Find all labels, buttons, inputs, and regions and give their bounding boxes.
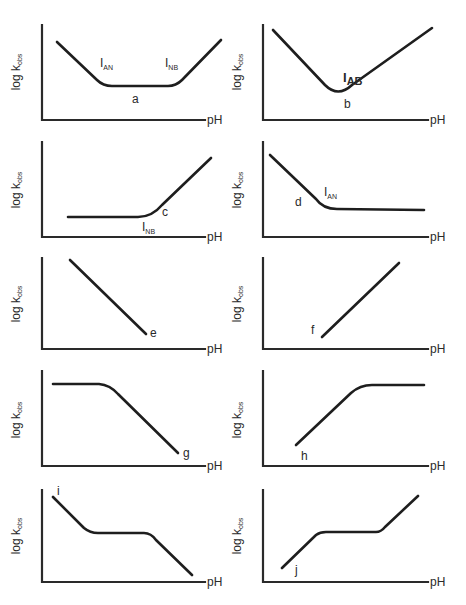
x-axis-label: pH — [207, 342, 222, 356]
rate-profile-curve — [296, 385, 424, 445]
x-axis-label: pH — [430, 575, 445, 589]
y-axis-label: log kobs — [230, 517, 244, 554]
panel-g: pHlog kobsg — [9, 371, 222, 473]
rate-profile-curve — [270, 155, 424, 210]
y-axis-label: log kobs — [9, 171, 23, 208]
region-label: IAN — [324, 185, 337, 200]
curve-letter-label: i — [57, 484, 60, 498]
panel-j: pHlog kobsj — [230, 490, 445, 589]
rate-profile-curve — [53, 384, 178, 453]
panel-i: pHlog kobsi — [9, 484, 222, 589]
rate-profile-curve — [57, 40, 221, 86]
panel-f: pHlog kobsf — [230, 258, 445, 356]
rate-profile-curve — [282, 496, 418, 568]
y-axis-label: log kobs — [230, 171, 244, 208]
axes — [42, 142, 205, 237]
rate-profile-curve — [70, 260, 146, 334]
x-axis-label: pH — [430, 113, 445, 127]
region-label: INB — [142, 220, 155, 235]
axes — [42, 258, 205, 349]
axes — [263, 258, 428, 349]
axes — [42, 25, 205, 120]
panel-c: pHlog kobscINB — [9, 142, 222, 244]
axes — [42, 490, 205, 582]
curve-letter-label: f — [311, 323, 315, 337]
curve-letter-label: c — [162, 205, 168, 219]
x-axis-label: pH — [430, 230, 445, 244]
y-axis-label: log kobs — [230, 285, 244, 322]
rate-profile-curve — [68, 158, 211, 217]
y-axis-label: log kobs — [230, 401, 244, 438]
y-axis-label: log kobs — [9, 53, 23, 90]
curve-letter-label: b — [344, 97, 351, 111]
x-axis-label: pH — [207, 459, 222, 473]
rate-profile-curve — [322, 263, 399, 337]
panel-b: pHlog kobsIABb — [230, 25, 445, 127]
ph-rate-profiles-figure: pHlog kobsIANINBapHlog kobsIABbpHlog kob… — [0, 0, 466, 605]
x-axis-label: pH — [430, 459, 445, 473]
y-axis-label: log kobs — [230, 53, 244, 90]
rate-profile-curve — [53, 497, 192, 575]
y-axis-label: log kobs — [9, 285, 23, 322]
x-axis-label: pH — [207, 575, 222, 589]
region-label: INB — [165, 56, 178, 71]
curve-letter-label: h — [301, 449, 308, 463]
y-axis-label: log kobs — [9, 401, 23, 438]
x-axis-label: pH — [207, 230, 222, 244]
region-label: IAN — [100, 56, 113, 71]
panel-h: pHlog kobsh — [230, 371, 445, 473]
x-axis-label: pH — [430, 342, 445, 356]
panel-a: pHlog kobsIANINBa — [9, 25, 222, 127]
curve-letter-label: d — [295, 195, 302, 209]
region-label: IAB — [343, 70, 363, 87]
curve-letter-label: g — [183, 446, 190, 460]
curve-letter-label: e — [150, 326, 157, 340]
axes — [263, 142, 428, 237]
axes — [263, 490, 428, 582]
y-axis-label: log kobs — [9, 517, 23, 554]
panel-e: pHlog kobse — [9, 258, 222, 356]
panel-d: pHlog kobsdIAN — [230, 142, 445, 244]
curve-letter-label: j — [294, 563, 298, 577]
curve-letter-label: a — [132, 92, 139, 106]
x-axis-label: pH — [207, 113, 222, 127]
